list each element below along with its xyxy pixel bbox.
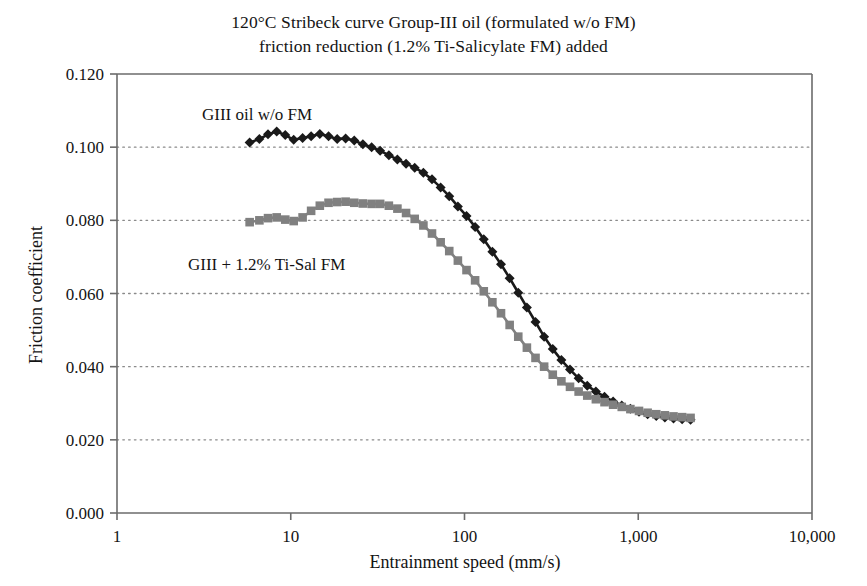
data-point	[609, 400, 618, 409]
data-point	[393, 204, 402, 213]
data-point	[471, 276, 480, 285]
data-series-layer	[245, 126, 696, 424]
data-point	[643, 408, 652, 417]
tick-labels: 0.0000.0200.0400.0600.0800.1000.12011010…	[66, 65, 836, 546]
data-point	[617, 403, 626, 412]
data-point	[686, 414, 695, 423]
data-point	[289, 135, 299, 145]
x-tick-label-3: 1,000	[619, 527, 657, 546]
data-point	[333, 198, 342, 207]
data-point	[392, 155, 402, 165]
data-point	[384, 150, 394, 160]
y-tick-label-1: 0.020	[66, 431, 104, 450]
data-point	[367, 200, 376, 209]
annotation-giii-no-fm: GIII oil w/o FM	[202, 105, 312, 124]
data-point	[583, 391, 592, 400]
data-point	[678, 413, 687, 422]
data-point	[289, 217, 298, 226]
data-point	[245, 218, 254, 227]
y-tick-label-2: 0.040	[66, 358, 104, 377]
x-tick-label-1: 10	[282, 527, 299, 546]
chart-title-line-1: 120°C Stribeck curve Group-III oil (form…	[0, 10, 867, 34]
data-point	[669, 412, 678, 421]
data-point	[341, 133, 351, 143]
data-point	[488, 298, 497, 307]
data-point	[367, 142, 377, 152]
data-point	[298, 213, 307, 222]
data-point	[410, 215, 419, 224]
data-point	[566, 382, 575, 391]
data-point	[454, 256, 463, 265]
x-tick-label-4: 10,000	[789, 527, 836, 546]
series-2	[245, 197, 695, 422]
data-point	[316, 201, 325, 210]
data-point	[626, 405, 635, 414]
data-point	[652, 410, 661, 419]
x-axis-title: Entrainment speed (mm/s)	[370, 552, 561, 573]
data-point	[523, 343, 532, 352]
data-point	[350, 198, 359, 207]
x-tick-label-2: 100	[452, 527, 478, 546]
y-axis-title: Friction coefficient	[26, 226, 46, 364]
data-point	[306, 131, 316, 141]
data-point	[298, 133, 308, 143]
chart-title: 120°C Stribeck curve Group-III oil (form…	[0, 10, 867, 58]
data-point	[359, 199, 368, 208]
data-point	[540, 362, 549, 371]
series-annotations: GIII oil w/o FMGIII + 1.2% Ti-Sal FM	[188, 105, 345, 274]
data-point	[264, 214, 273, 223]
data-point	[263, 129, 273, 139]
gridlines	[117, 147, 812, 440]
data-point	[332, 134, 342, 144]
data-point	[574, 387, 583, 396]
data-point	[341, 197, 350, 206]
data-point	[661, 411, 670, 420]
data-point	[635, 407, 644, 416]
y-tick-label-0: 0.000	[66, 504, 104, 523]
y-tick-label-5: 0.100	[66, 138, 104, 157]
y-tick-label-4: 0.080	[66, 211, 104, 230]
x-tick-label-0: 1	[113, 527, 122, 546]
data-point	[428, 229, 437, 238]
stribeck-curve-plot: 0.0000.0200.0400.0600.0800.1000.12011010…	[0, 0, 867, 586]
data-point	[600, 398, 609, 407]
series-line-2	[250, 202, 691, 418]
data-point	[349, 136, 359, 146]
data-point	[557, 377, 566, 386]
chart-figure: 120°C Stribeck curve Group-III oil (form…	[0, 0, 867, 586]
data-point	[402, 209, 411, 218]
data-point	[376, 200, 385, 209]
data-point	[514, 332, 523, 341]
data-point	[419, 221, 428, 230]
data-point	[462, 266, 471, 275]
data-point	[479, 287, 488, 296]
data-point	[497, 309, 506, 318]
data-point	[255, 216, 264, 225]
data-point	[324, 198, 333, 207]
data-point	[272, 213, 281, 222]
y-tick-label-6: 0.120	[66, 65, 104, 84]
tick-marks	[110, 74, 812, 520]
data-point	[307, 207, 316, 216]
data-point	[505, 321, 514, 330]
data-point	[592, 395, 601, 404]
annotation-giii-ti-sal: GIII + 1.2% Ti-Sal FM	[188, 255, 345, 274]
data-point	[254, 134, 264, 144]
chart-title-line-2: friction reduction (1.2% Ti-Salicylate F…	[0, 34, 867, 58]
data-point	[280, 130, 290, 140]
data-point	[281, 215, 290, 224]
data-point	[531, 354, 540, 363]
data-point	[445, 247, 454, 256]
data-point	[272, 126, 282, 136]
data-point	[315, 129, 325, 139]
data-point	[401, 159, 411, 169]
data-point	[548, 370, 557, 379]
data-point	[385, 201, 394, 210]
data-point	[436, 238, 445, 247]
data-point	[245, 137, 255, 147]
y-tick-label-3: 0.060	[66, 285, 104, 304]
data-point	[324, 131, 334, 141]
